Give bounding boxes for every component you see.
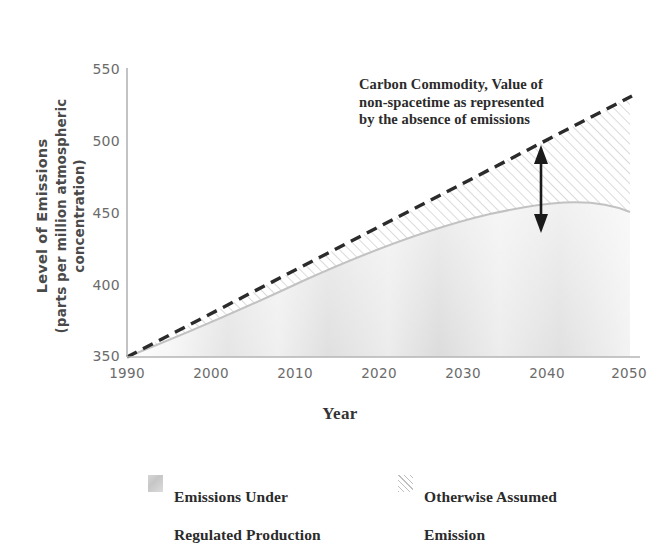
x-tick-label-2010: 2010	[265, 365, 325, 381]
legend-item-otherwise-assumed: Otherwise Assumed Emission	[398, 468, 557, 547]
annotation-line-2: non-spacetime as represented	[359, 94, 609, 112]
annotation-line-1: Carbon Commodity, Value of	[359, 76, 609, 94]
legend-label-regulated-production: Emissions Under Regulated Production	[174, 468, 321, 547]
chart-legend: Emissions Under Regulated Production Oth…	[0, 462, 660, 522]
regulated-production-area-overlay	[127, 202, 630, 357]
x-tick-label-2050: 2050	[599, 365, 659, 381]
legend-label-line-1: Otherwise Assumed	[424, 487, 557, 506]
legend-item-regulated-production: Emissions Under Regulated Production	[148, 468, 321, 547]
carbon-commodity-annotation: Carbon Commodity, Value of non-spacetime…	[359, 76, 609, 129]
annotation-line-3: by the absence of emissions	[359, 111, 609, 129]
x-tick-label-1990: 1990	[97, 365, 157, 381]
x-tick-label-2000: 2000	[181, 365, 241, 381]
x-tick-label-2020: 2020	[349, 365, 409, 381]
legend-label-line-1: Emissions Under	[174, 487, 321, 506]
legend-swatch-solid-gray-icon	[148, 475, 163, 492]
legend-label-line-2: Emission	[424, 525, 557, 544]
x-tick-label-2040: 2040	[517, 365, 577, 381]
x-tick-label-2030: 2030	[433, 365, 493, 381]
x-axis-title: Year	[280, 404, 400, 424]
legend-label-line-2: Regulated Production	[174, 525, 321, 544]
legend-swatch-hatch-icon	[398, 475, 413, 492]
legend-label-otherwise-assumed: Otherwise Assumed Emission	[424, 468, 557, 547]
